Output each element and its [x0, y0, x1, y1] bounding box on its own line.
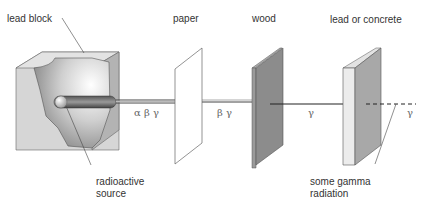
wood-board — [252, 48, 283, 168]
beam-label-gamma: γ — [308, 107, 314, 119]
beam-label-alpha-beta-gamma: α β γ — [134, 107, 159, 119]
beam-label-beta-gamma: β γ — [217, 107, 232, 119]
lead-or-concrete-slab — [343, 48, 381, 165]
label-lead-or-concrete: lead or concrete — [330, 14, 402, 26]
lead-block — [16, 52, 119, 150]
radiation-penetration-diagram: lead block paper wood lead or concrete r… — [0, 0, 427, 207]
paper-sheet — [175, 48, 202, 164]
label-paper: paper — [173, 13, 199, 25]
beam-alpha-beta-gamma — [116, 100, 176, 103]
label-radioactive: radioactive — [96, 176, 144, 188]
label-wood: wood — [252, 13, 276, 25]
leader-lead-block — [62, 18, 84, 53]
label-radiation: radiation — [310, 188, 348, 200]
label-some-gamma: some gamma — [310, 176, 371, 188]
beam-label-gamma-attenuated: γ — [407, 107, 413, 119]
label-source: source — [96, 188, 126, 200]
label-lead-block: lead block — [7, 13, 52, 25]
